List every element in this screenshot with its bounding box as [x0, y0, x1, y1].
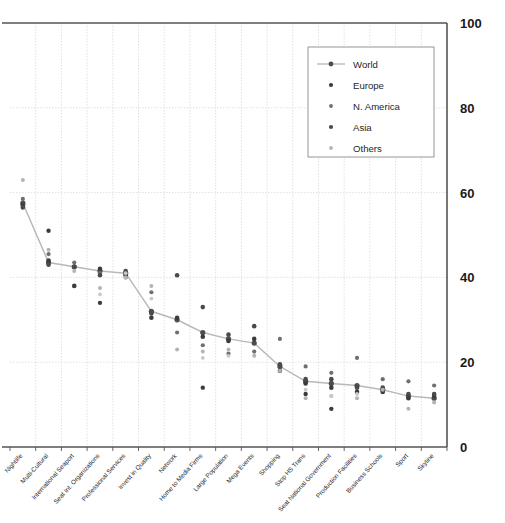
data-point — [98, 292, 102, 296]
data-point — [252, 354, 256, 358]
data-point — [252, 350, 256, 354]
legend-entry-label: Others — [353, 143, 382, 154]
legend-marker-swatch — [329, 83, 333, 87]
data-point — [72, 265, 77, 270]
data-point — [252, 337, 257, 342]
legend-marker-swatch — [329, 62, 334, 67]
data-point — [201, 385, 205, 389]
data-point — [432, 383, 436, 387]
data-point — [355, 392, 359, 396]
x-axis-category-label: Skyline — [416, 452, 436, 473]
data-point — [252, 324, 257, 329]
data-point — [252, 341, 257, 346]
data-point — [304, 396, 308, 400]
data-point — [381, 377, 385, 381]
data-point — [355, 385, 360, 390]
data-point — [47, 248, 51, 252]
data-point — [98, 286, 102, 290]
legend-entry-label: N. America — [353, 101, 401, 112]
data-point — [21, 205, 26, 210]
data-point — [355, 356, 359, 360]
data-point — [278, 369, 282, 373]
data-point — [329, 371, 333, 375]
legend-entry-label: World — [353, 59, 378, 70]
data-point — [175, 330, 179, 334]
data-point — [303, 377, 308, 382]
data-point — [46, 258, 51, 263]
data-point — [278, 337, 282, 341]
data-point — [355, 396, 359, 400]
data-point — [46, 262, 51, 267]
data-point — [46, 229, 50, 233]
data-point — [329, 377, 334, 382]
x-axis-category-label: Seat National Government — [276, 452, 332, 513]
data-point — [227, 347, 231, 351]
data-point — [72, 284, 77, 289]
chart-canvas: 100806040200NightlifeMulti-CulturalInter… — [0, 0, 505, 523]
data-point — [98, 301, 102, 305]
data-point — [227, 354, 231, 358]
data-point — [304, 364, 308, 368]
x-axis-category-label: Home to Media Firms — [157, 452, 203, 502]
data-point — [278, 362, 283, 367]
x-axis-category-labels: NightlifeMulti-CulturalInternational Sea… — [3, 451, 436, 512]
data-point — [226, 332, 231, 337]
data-point — [21, 178, 25, 182]
data-point — [72, 269, 76, 273]
data-point — [226, 339, 231, 344]
dot-plot-chart: 100806040200NightlifeMulti-CulturalInter… — [0, 0, 505, 523]
data-point — [432, 400, 436, 404]
data-point — [201, 343, 205, 347]
data-point — [200, 305, 205, 310]
data-point — [200, 334, 205, 339]
data-point — [21, 197, 25, 201]
data-point — [149, 297, 153, 301]
legend-marker-swatch — [329, 125, 333, 129]
data-point — [149, 284, 153, 288]
data-point — [406, 379, 410, 383]
data-point — [98, 273, 103, 278]
data-point — [175, 347, 179, 351]
x-axis-category-label: Network — [157, 451, 178, 474]
x-axis-category-label: Sport — [394, 452, 410, 469]
data-point — [149, 315, 154, 320]
data-point — [406, 396, 411, 401]
legend-entry-label: Asia — [353, 122, 372, 133]
y-axis-tick-label: 0 — [460, 440, 467, 455]
data-point — [406, 392, 411, 397]
legend-marker-swatch — [329, 104, 333, 108]
y-axis-tick-label: 80 — [460, 101, 474, 116]
data-point — [124, 271, 128, 275]
legend: WorldEuropeN. AmericaAsiaOthers — [308, 47, 434, 157]
legend-entry-label: Europe — [353, 80, 384, 91]
data-point — [149, 290, 153, 294]
y-axis-tick-labels: 100806040200 — [460, 16, 482, 455]
data-point — [124, 275, 128, 279]
data-point — [432, 392, 437, 397]
data-point — [303, 392, 307, 396]
x-axis-category-label: Mega Events — [225, 452, 256, 485]
y-axis-tick-label: 20 — [460, 355, 474, 370]
data-point — [98, 267, 103, 272]
data-point — [406, 407, 410, 411]
data-point — [303, 381, 308, 386]
data-point — [201, 356, 205, 360]
y-axis-tick-label: 100 — [460, 16, 482, 31]
data-point — [201, 350, 205, 354]
legend-marker-swatch — [329, 146, 333, 150]
data-point — [329, 385, 334, 390]
x-axis-category-label: Shopping — [257, 452, 281, 478]
x-axis-category-label: Nightlife — [3, 452, 25, 475]
data-point — [175, 273, 180, 278]
data-point — [149, 311, 154, 316]
data-point — [200, 330, 205, 335]
data-point — [381, 388, 385, 392]
y-axis-tick-label: 40 — [460, 270, 474, 285]
data-point — [175, 315, 180, 320]
y-axis-tick-label: 60 — [460, 186, 474, 201]
x-axis-category-label: Seat Int. Organizations — [52, 452, 101, 506]
data-point — [304, 388, 308, 392]
data-point — [329, 407, 333, 411]
data-point — [329, 381, 334, 386]
data-point — [46, 252, 50, 256]
